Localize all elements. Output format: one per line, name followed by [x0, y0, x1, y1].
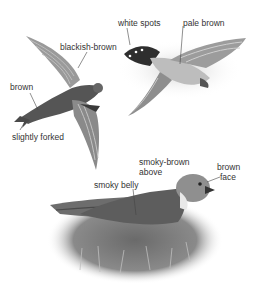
label-smoky-brown-line2: above: [139, 167, 190, 177]
label-brown-face-line2: face: [217, 172, 240, 182]
label-smoky-brown-line1: smoky-brown: [139, 157, 190, 167]
label-smoky-belly: smoky belly: [94, 180, 138, 190]
bird-illustration: [0, 0, 255, 286]
label-slightly-forked: slightly forked: [12, 132, 64, 142]
label-brown-face-line1: brown: [217, 162, 240, 172]
label-brown-left: brown: [10, 82, 33, 92]
label-pale-brown: pale brown: [183, 18, 225, 28]
perched-bird: [47, 174, 223, 284]
label-brown-face: brown face: [217, 162, 240, 182]
label-blackish-brown: blackish-brown: [60, 42, 117, 52]
flying-bird-left: [14, 36, 103, 170]
label-white-spots: white spots: [118, 18, 161, 28]
label-smoky-brown-above: smoky-brown above: [139, 157, 190, 177]
flying-bird-right: [118, 38, 246, 116]
